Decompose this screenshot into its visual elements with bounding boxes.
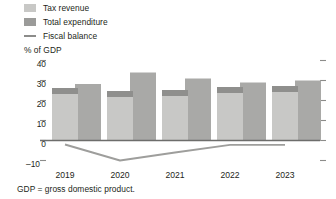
y-axis-unit-label: % of GDP	[24, 45, 62, 55]
x-tick-label-2019: 2019	[43, 170, 87, 181]
legend-swatch-tax-revenue	[24, 4, 36, 12]
bar-total-expenditure-2023	[295, 81, 321, 141]
legend-swatch-fiscal-balance	[24, 32, 36, 40]
bar-total-expenditure-2021	[185, 79, 211, 141]
chart-footnote: GDP = gross domestic product.	[17, 184, 135, 194]
bar-total-expenditure-2020	[130, 73, 156, 141]
x-tick-label-2020: 2020	[98, 170, 142, 181]
bar-tax-revenue-overlap-2020	[107, 91, 133, 97]
x-tick-label-2022: 2022	[208, 170, 252, 181]
y-axis-tick-marks-left	[40, 61, 46, 161]
chart-legend: Tax revenue Total expenditure Fiscal bal…	[24, 1, 224, 43]
bar-group-2022	[217, 83, 266, 141]
legend-item-tax-revenue: Tax revenue	[24, 1, 224, 14]
bar-group-2020	[107, 73, 156, 141]
legend-label-total-expenditure: Total expenditure	[43, 17, 108, 27]
bar-tax-revenue-overlap-2021	[162, 90, 188, 96]
bar-group-2019	[52, 84, 101, 141]
bar-tax-revenue-2023	[272, 92, 298, 141]
bar-group-2023	[272, 81, 321, 141]
legend-label-fiscal-balance: Fiscal balance	[43, 31, 97, 41]
bar-group-2021	[162, 79, 211, 141]
bar-tax-revenue-overlap-2022	[217, 87, 243, 93]
x-tick-label-2023: 2023	[263, 170, 307, 181]
plot-area	[0, 58, 336, 168]
bar-total-expenditure-2019	[75, 84, 101, 141]
legend-swatch-total-expenditure	[24, 18, 36, 26]
bar-tax-revenue-overlap-2023	[272, 86, 298, 92]
x-tick-label-2021: 2021	[153, 170, 197, 181]
legend-item-fiscal-balance: Fiscal balance	[24, 29, 224, 42]
legend-item-total-expenditure: Total expenditure	[24, 15, 224, 28]
bar-tax-revenue-2022	[217, 93, 243, 141]
legend-label-tax-revenue: Tax revenue	[43, 3, 89, 13]
fiscal-indicators-chart-figure: Tax revenue Total expenditure Fiscal bal…	[0, 0, 336, 199]
bar-tax-revenue-overlap-2019	[52, 88, 78, 94]
bar-tax-revenue-2020	[107, 97, 133, 141]
bar-tax-revenue-2021	[162, 96, 188, 141]
fiscal-balance-line	[65, 145, 285, 161]
bar-total-expenditure-2022	[240, 83, 266, 141]
bar-tax-revenue-2019	[52, 94, 78, 141]
